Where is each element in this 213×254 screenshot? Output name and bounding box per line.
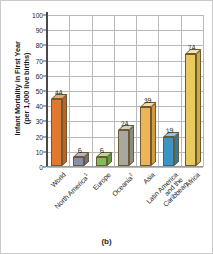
y-axis-line [46, 12, 48, 167]
y-tick-label: 10 [36, 148, 43, 155]
gridline-horizontal [47, 76, 203, 77]
bar-side-face [174, 133, 179, 166]
bar: 6 [96, 157, 107, 166]
plot-area: 0102030405060708090100446624391974 [47, 15, 203, 167]
y-axis-title-line1: Infant Mortality in First Year [13, 41, 22, 135]
bar-front-face [51, 99, 62, 166]
x-axis-line [47, 166, 203, 167]
y-tick-label: 0 [39, 164, 43, 171]
bar-front-face [140, 107, 151, 166]
bar-value-label: 24 [121, 119, 130, 127]
bar-value-label: 74 [188, 43, 197, 51]
bar-value-label: 44 [54, 89, 63, 97]
gridline-vertical [92, 15, 93, 167]
x-axis-category-label: World [50, 171, 68, 189]
gridline-vertical [114, 15, 115, 167]
y-tick-label: 50 [36, 88, 43, 95]
bar: 44 [51, 99, 62, 166]
y-tick-label: 60 [36, 72, 43, 79]
figure-panel: Infant Mortality in First Year (per 1,00… [0, 0, 213, 254]
bar-side-face [62, 95, 67, 166]
y-tick-label: 100 [32, 12, 43, 19]
y-tick-label: 20 [36, 133, 43, 140]
bar: 6 [73, 157, 84, 166]
y-tick-label: 70 [36, 57, 43, 64]
bar: 24 [118, 130, 129, 166]
bar-front-face [73, 157, 84, 166]
y-tick-label: 80 [36, 42, 43, 49]
figure-caption: (b) [1, 237, 212, 246]
y-axis-title-line2: (per 1,000 live births) [22, 53, 31, 125]
gridline-horizontal [47, 61, 203, 62]
bar-front-face [96, 157, 107, 166]
bar-side-face [196, 49, 201, 166]
bar-front-face [163, 137, 174, 166]
bar-front-face [118, 130, 129, 166]
plot-inner: 0102030405060708090100446624391974 [47, 15, 203, 167]
gridline-horizontal [47, 167, 203, 168]
x-axis-category-label: Oceania2 [109, 171, 136, 198]
gridline-vertical [181, 15, 182, 167]
gridline-horizontal [47, 91, 203, 92]
y-tick-label: 40 [36, 103, 43, 110]
bar: 19 [163, 137, 174, 166]
bar-side-face [129, 125, 134, 166]
gridline-horizontal [47, 15, 203, 16]
x-axis-category-label: Europe [91, 171, 112, 192]
bar-value-label: 39 [143, 96, 152, 104]
gridline-vertical [158, 15, 159, 167]
bar: 39 [140, 107, 151, 166]
gridline-horizontal [47, 30, 203, 31]
gridline-vertical [69, 15, 70, 167]
y-axis-title: Infant Mortality in First Year (per 1,00… [13, 12, 32, 164]
bar-value-label: 6 [77, 147, 82, 155]
x-axis-category-label: Asia [142, 171, 157, 186]
bar: 74 [185, 54, 196, 166]
bar-value-label: 6 [100, 147, 105, 155]
gridline-horizontal [47, 106, 203, 107]
y-tick-label: 90 [36, 27, 43, 34]
y-tick-label: 30 [36, 118, 43, 125]
bar-side-face [151, 102, 156, 166]
bar-value-label: 19 [165, 127, 174, 135]
bar-front-face [185, 54, 196, 166]
gridline-horizontal [47, 45, 203, 46]
gridline-vertical [203, 15, 204, 167]
gridline-vertical [136, 15, 137, 167]
x-axis-category-label: Africa [184, 171, 202, 189]
